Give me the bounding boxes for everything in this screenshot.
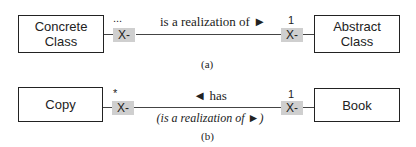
multiplicity-left-b: * bbox=[113, 87, 117, 99]
concrete-class-line1: Concrete bbox=[35, 19, 88, 34]
connector-left-b bbox=[103, 107, 112, 108]
x-tag-right-a: X- bbox=[281, 28, 303, 42]
connector-right-b bbox=[303, 107, 314, 108]
abstract-class-line2: Class bbox=[341, 34, 374, 49]
abstract-class-line1: Abstract bbox=[333, 19, 381, 34]
x-tag-left-b: X- bbox=[112, 101, 134, 115]
concrete-class-line2: Class bbox=[45, 34, 78, 49]
abstract-class-box: Abstract Class bbox=[314, 15, 400, 53]
association-label-b: ◄ has bbox=[170, 88, 250, 104]
caption-b: (b) bbox=[201, 130, 214, 142]
association-sublabel-b: (is a realization of ►) bbox=[155, 111, 265, 126]
multiplicity-right-b: 1 bbox=[288, 88, 294, 100]
multiplicity-right-a: 1 bbox=[288, 14, 294, 26]
association-line-a bbox=[136, 34, 281, 35]
caption-a: (a) bbox=[201, 58, 213, 70]
x-tag-left-a: X- bbox=[113, 28, 135, 42]
connector-left-a bbox=[104, 34, 113, 35]
connector-right-a bbox=[303, 34, 314, 35]
concrete-class-box: Concrete Class bbox=[18, 15, 104, 53]
x-tag-right-b: X- bbox=[281, 101, 303, 115]
book-class-box: Book bbox=[314, 88, 400, 122]
multiplicity-left-a: ... bbox=[113, 12, 122, 24]
association-line-b bbox=[134, 107, 281, 108]
copy-class-box: Copy bbox=[18, 87, 103, 122]
association-label-a: is a realization of ► bbox=[160, 14, 260, 30]
